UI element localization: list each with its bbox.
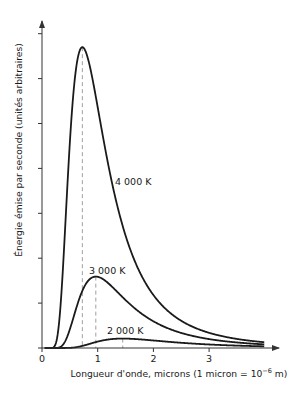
y-axis-label: Énergie émise par seconde (unités arbitr… — [13, 43, 24, 257]
x-tick-label: 0 — [39, 353, 45, 364]
curve-label-4000k: 4 000 K — [115, 176, 152, 187]
curves — [45, 47, 264, 348]
curve-labels: 4 000 K3 000 K2 000 K — [89, 176, 152, 336]
blackbody-chart: 0123 4 000 K3 000 K2 000 K Énergie émise… — [0, 0, 298, 399]
x-tick-label: 2 — [150, 353, 156, 364]
curve-label-3000k: 3 000 K — [89, 265, 126, 276]
y-ticks — [38, 34, 42, 303]
x-tick-label: 1 — [95, 353, 101, 364]
curve-2000k — [45, 339, 264, 348]
x-tick-label: 3 — [206, 353, 212, 364]
x-ticks: 0123 — [39, 348, 212, 364]
curve-label-2000k: 2 000 K — [107, 325, 144, 336]
x-axis-label: Longueur d'onde, microns (1 micron = 10−… — [71, 367, 288, 379]
peak-dashed-lines — [82, 47, 122, 348]
